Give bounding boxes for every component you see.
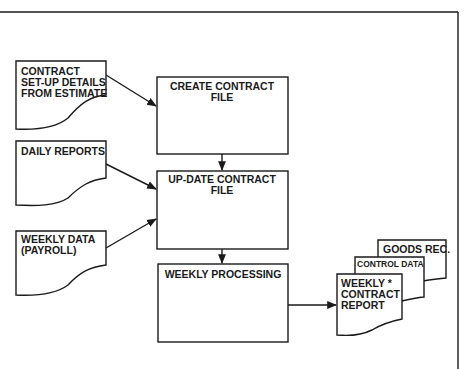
doc-label-line: FROM ESTIMATE [21, 87, 107, 99]
doc-label-line: CONTROL DATA [357, 259, 424, 269]
output-weekly-contract-report-document: WEEKLY * CONTRACT REPORT [337, 274, 402, 335]
flowchart-canvas: CONTRACT SET-UP DETAILS FROM ESTIMATE DA… [0, 0, 473, 369]
input-daily-reports-document: DAILY REPORTS [16, 141, 106, 205]
doc-label-line: (PAYROLL) [21, 244, 76, 256]
arrow-daily-to-update [106, 164, 156, 189]
doc-label-line: GOODS REC. [383, 243, 450, 255]
doc-label-line: DAILY REPORTS [21, 145, 105, 157]
input-contract-setup-document: CONTRACT SET-UP DETAILS FROM ESTIMATE [16, 61, 107, 129]
process-label-line: WEEKLY PROCESSING [165, 268, 282, 280]
process-label-line: FILE [211, 184, 234, 196]
arrow-weekly-data-to-update [106, 219, 156, 248]
input-weekly-data-document: WEEKLY DATA (PAYROLL) [16, 231, 106, 295]
process-create-contract-file: CREATE CONTRACT FILE [157, 77, 288, 154]
process-label-line: FILE [211, 91, 234, 103]
arrow-contract-setup-to-create [106, 75, 156, 106]
process-weekly-processing: WEEKLY PROCESSING [158, 264, 288, 342]
doc-label-line: REPORT [341, 299, 385, 311]
process-update-contract-file: UP-DATE CONTRACT FILE [157, 171, 288, 249]
